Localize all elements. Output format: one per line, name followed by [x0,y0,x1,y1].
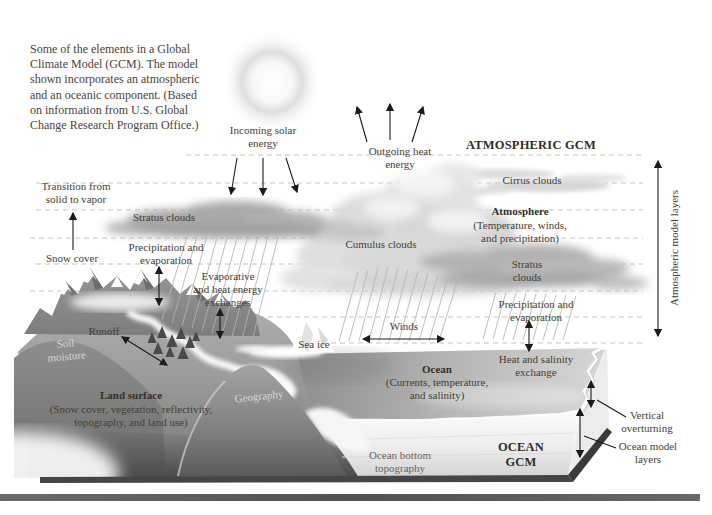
snow-cover-label: Snow cover [46,252,98,265]
ocean-detail: (Currents, temperature, and salinity) [386,376,488,402]
sea-ice-label: Sea ice [298,338,329,351]
winds-label: Winds [390,320,418,333]
ocean-gcm-title: OCEAN GCM [498,440,544,469]
incoming-solar-arrow [286,158,297,192]
precip-left-label: Precipitation and evaporation [129,241,204,267]
incoming-solar-label: Incoming solar energy [230,124,296,150]
precip-right-label: Precipitation and evaporation [499,298,574,324]
vertical-overturning-label: Vertical overturning [621,409,672,435]
incoming-solar-arrow [231,158,237,194]
outgoing-heat-arrow [357,107,367,142]
heat-salinity-label: Heat and salinity exchange [499,353,574,379]
ocean-model-layers-label: Ocean model layers [619,440,677,466]
land-surface-detail: (Snow cover, vegetation, reflectivity, t… [50,403,213,429]
evaporative-label: Evaporative and heat energy exchanges [193,270,262,308]
atmosphere-title: Atmosphere [491,205,548,218]
soil-moisture-label: Soil moisture [46,335,87,364]
transition-label: Transition from solid to vapor [42,180,111,206]
figure-caption: Some of the elements in a Global Climate… [30,42,240,133]
cumulus-clouds-label: Cumulus clouds [345,238,416,251]
atmospheric-model-layers-label: Atmospheric model layers [668,190,681,306]
stratus-left-label: Stratus clouds [133,211,195,224]
cirrus-clouds-label: Cirrus clouds [503,174,562,187]
bottom-rule [0,494,700,501]
ocean-title: Ocean [422,363,452,376]
gcm-diagram: Some of the elements in a Global Climate… [0,0,712,515]
atmospheric-gcm-title: ATMOSPHERIC GCM [466,138,596,153]
runoff-label: Runoff [89,325,120,338]
stratus-right-label: Stratus clouds [512,258,543,284]
outgoing-heat-arrow [412,107,423,142]
land-surface-title: Land surface [100,389,162,402]
outgoing-heat-label: Outgoing heat energy [369,145,432,171]
atmosphere-detail: (Temperature, winds, and precipitation) [473,219,567,245]
ocean-bottom-label: Ocean bottom topography [369,449,431,475]
